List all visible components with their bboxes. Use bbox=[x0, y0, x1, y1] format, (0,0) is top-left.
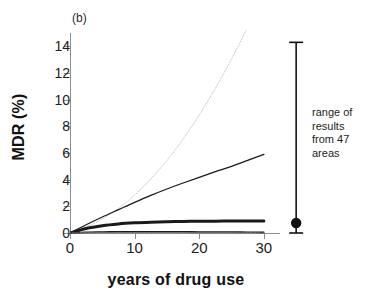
annotation-line-1: range of bbox=[312, 106, 374, 120]
annotation-line-3: from 47 bbox=[312, 133, 374, 147]
series-upper-scenario bbox=[70, 0, 264, 233]
error-bar bbox=[289, 42, 303, 233]
annotation-line-2: results bbox=[312, 120, 374, 134]
data-curves bbox=[70, 0, 264, 233]
error-bar-point-marker bbox=[291, 218, 301, 228]
chart-figure: (b) MDR (%) years of drug use 0246810121… bbox=[0, 0, 376, 306]
annotation-line-4: areas bbox=[312, 147, 374, 161]
range-annotation: range of results from 47 areas bbox=[312, 106, 374, 160]
